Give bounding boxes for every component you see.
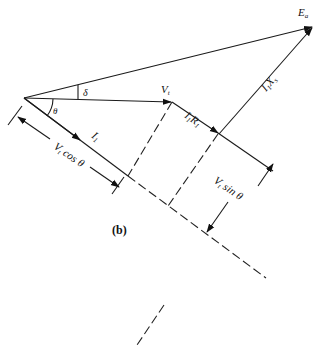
vsin-label: Vt sin θ: [211, 174, 246, 204]
iaxs-label: I1Xs: [258, 73, 280, 96]
vcos-tick-left: [8, 106, 22, 125]
vcos-label: Vt cos θ: [51, 140, 88, 171]
vcos-arrow-left: [18, 117, 50, 139]
vcos-tick-right: [112, 177, 124, 194]
iara-label: I1R1: [181, 108, 204, 130]
vt-phasor: [24, 98, 171, 102]
delta-label: δ: [83, 87, 88, 98]
vcos-arrow-right: [90, 167, 119, 187]
ea-label: Ea: [297, 6, 309, 20]
figure-caption: (b): [112, 223, 127, 237]
iara-extension-line: [218, 133, 273, 171]
lone-dash-segment: [135, 305, 164, 348]
vsin-arrow-up: [258, 164, 273, 186]
theta-label: θ: [53, 106, 58, 116]
vt-projection-dash: [128, 102, 172, 176]
vsin-arrow-down: [207, 202, 228, 232]
iara-projection-dash: [168, 134, 218, 206]
vt-label: Vt: [161, 83, 171, 97]
phasor-diagram: Ea Vt δ θ I1 I1R1 I1Xs Vt cos θ Vt sin θ…: [0, 0, 321, 348]
ia-label: I1: [88, 128, 103, 144]
